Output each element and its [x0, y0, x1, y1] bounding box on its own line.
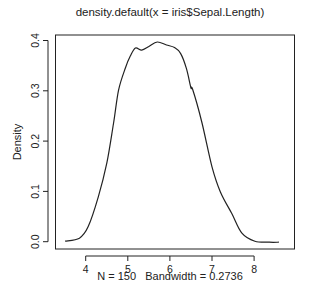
plot-frame	[56, 35, 295, 249]
x-tick-label: 4	[83, 263, 89, 275]
y-tick-label: 0.2	[29, 134, 41, 149]
density-curve	[65, 42, 279, 242]
y-tick-label: 0.0	[29, 234, 41, 249]
y-tick-label: 0.4	[29, 33, 41, 48]
x-axis-label: N = 150 Bandwidth = 0.2736	[97, 270, 243, 282]
y-axis-label: Density	[11, 123, 23, 160]
chart-title: density.default(x = iris$Sepal.Length)	[76, 6, 265, 18]
density-plot: density.default(x = iris$Sepal.Length) 0…	[0, 0, 309, 286]
y-axis: 0.00.10.20.30.4	[29, 33, 48, 249]
y-tick-label: 0.3	[29, 83, 41, 98]
x-tick-label: 8	[251, 263, 257, 275]
y-tick-label: 0.1	[29, 184, 41, 199]
